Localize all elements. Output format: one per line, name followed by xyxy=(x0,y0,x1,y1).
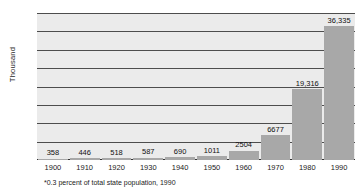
bar-slot-1930: 587 xyxy=(132,13,164,160)
bar-1980[interactable] xyxy=(292,89,322,160)
bar-value-label-1980: 19,316 xyxy=(287,79,327,88)
bar-slot-1940: 690 xyxy=(164,13,196,160)
bar-value-label-1970: 6677 xyxy=(256,125,296,134)
bar-slot-1900: 358 xyxy=(37,13,69,160)
bar-slot-1950: 1011 xyxy=(196,13,228,160)
bar-1990[interactable] xyxy=(324,26,354,160)
x-tick-label-1970: 1970 xyxy=(260,163,292,172)
bar-1930[interactable] xyxy=(133,158,163,160)
x-tick-label-1930: 1930 xyxy=(132,163,164,172)
bar-1960[interactable] xyxy=(229,151,259,160)
chart-footnote: *0.3 percent of total state population, … xyxy=(44,178,176,187)
bar-slot-1910: 446 xyxy=(69,13,101,160)
bar-1900[interactable] xyxy=(38,159,68,161)
bar-1940[interactable] xyxy=(165,157,195,160)
bar-value-label-1990: 36,335 xyxy=(319,16,359,25)
x-tick-label-1980: 1980 xyxy=(291,163,323,172)
bar-slot-1990: 36,335 xyxy=(323,13,355,160)
plot-area: 35844651858769010112504667719,31636,335 xyxy=(37,13,355,160)
bar-slot-1920: 518 xyxy=(101,13,133,160)
bar-1950[interactable] xyxy=(197,156,227,160)
x-tick-label-1940: 1940 xyxy=(164,163,196,172)
bar-slot-1960: 2504 xyxy=(228,13,260,160)
x-tick-label-1920: 1920 xyxy=(101,163,133,172)
bar-1970[interactable] xyxy=(261,135,291,160)
x-tick-label-1900: 1900 xyxy=(37,163,69,172)
x-tick-label-1990: 1990 xyxy=(323,163,355,172)
bar-1920[interactable] xyxy=(102,158,132,160)
x-tick-label-1960: 1960 xyxy=(228,163,260,172)
y-axis-title: Thousand xyxy=(8,27,17,103)
bar-slot-1980: 19,316 xyxy=(291,13,323,160)
bar-1910[interactable] xyxy=(70,158,100,160)
bar-value-label-1960: 2504 xyxy=(224,140,264,149)
bar-chart-figure: Thousand 0510152025303540 35844651858769… xyxy=(0,0,360,194)
x-tick-label-1910: 1910 xyxy=(69,163,101,172)
x-tick-label-1950: 1950 xyxy=(196,163,228,172)
